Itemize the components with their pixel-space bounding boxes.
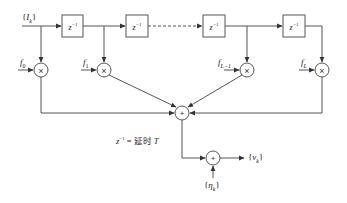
multiply-symbol: × [244,66,249,76]
tap-label-fL: fL [301,58,307,69]
tap-label-fL-1: fL−1 [218,58,231,69]
delay-label: z−1 [62,22,84,32]
add-symbol: + [180,109,185,118]
multiply-symbol: × [101,66,106,76]
delay-label: z−1 [126,22,148,32]
tap-label-f1: f1 [83,58,89,69]
add-symbol: + [211,154,216,163]
delay-label: z−1 [203,22,225,32]
input-label: {Ik} [22,13,36,24]
delay-label: z−1 [283,22,305,32]
delay-definition-note: z−1 = 延时 T [116,134,159,146]
noise-label: {ηk} [204,181,220,192]
multiply-symbol: × [319,66,324,76]
multiply-symbol: × [38,66,43,76]
output-label: {vk} [248,153,263,164]
tap-label-f0: f0 [20,58,26,69]
